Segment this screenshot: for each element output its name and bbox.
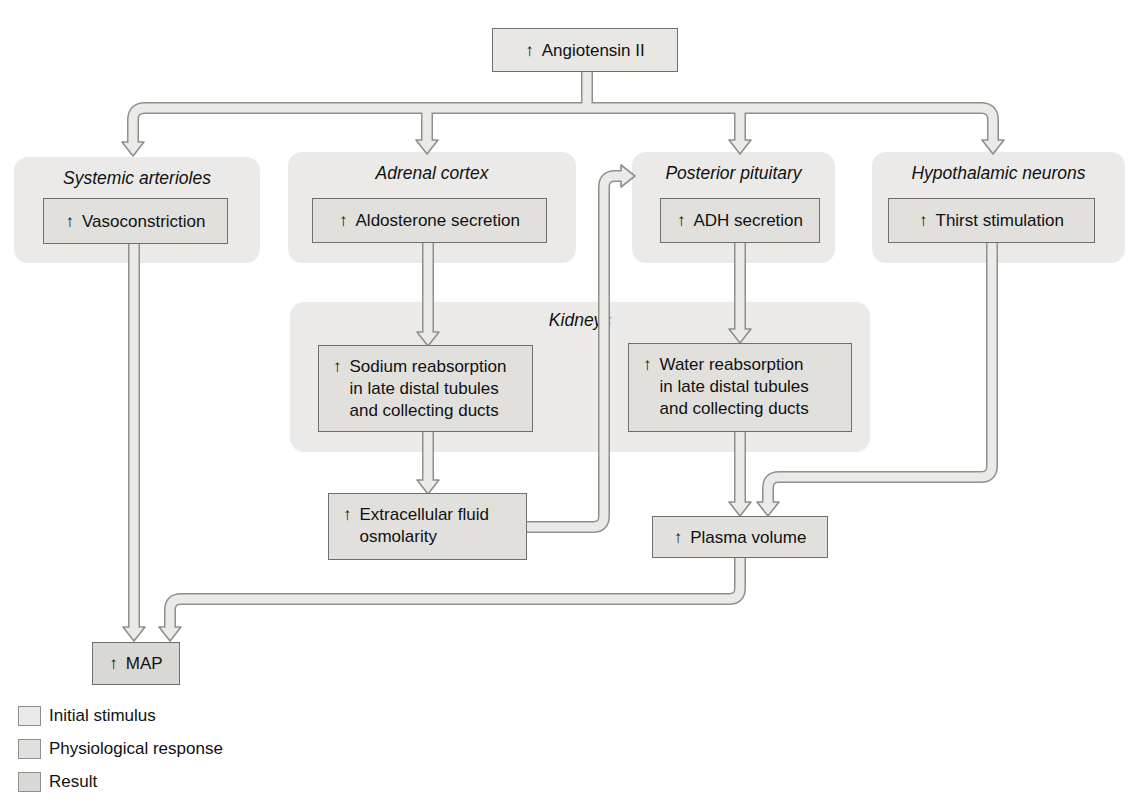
legend-label-physiological-response: Physiological response <box>49 739 223 759</box>
up-arrow-glyph: ↑ <box>66 211 75 232</box>
up-arrow-glyph: ↑ <box>109 653 118 674</box>
up-arrow-glyph: ↑ <box>525 40 534 61</box>
angiotensin-flowchart: Systemic arterioles Adrenal cortex Poste… <box>0 0 1147 812</box>
legend-swatch-result <box>18 772 41 792</box>
flow-arrows <box>0 0 1147 812</box>
arrow-shaft-outlines <box>133 72 993 630</box>
box-label-sodium: Sodium reabsorptionin late distal tubule… <box>350 356 507 422</box>
box-vasoconstriction: ↑ Vasoconstriction <box>43 198 228 244</box>
up-arrow-glyph: ↑ <box>343 504 352 526</box>
box-water-reabsorption: ↑ Water reabsorptionin late distal tubul… <box>628 343 852 432</box>
up-arrow-glyph: ↑ <box>333 356 342 378</box>
arrow-branch-bar <box>133 108 993 145</box>
legend-item-physiological-response: Physiological response <box>18 739 223 759</box>
legend-swatch-initial-stimulus <box>18 706 41 726</box>
up-arrow-glyph: ↑ <box>339 210 348 231</box>
box-label-angiotensin: Angiotensin II <box>542 40 645 61</box>
arrow-heads <box>122 140 1004 641</box>
box-label-aldosterone: Aldosterone secretion <box>356 210 520 231</box>
legend-label-result: Result <box>49 772 97 792</box>
box-label-thirst: Thirst stimulation <box>936 210 1064 231</box>
up-arrow-glyph: ↑ <box>919 210 928 231</box>
legend-item-result: Result <box>18 772 97 792</box>
box-plasma-volume: ↑ Plasma volume <box>652 516 828 558</box>
arrow-shaft-fills <box>133 72 993 630</box>
box-aldosterone: ↑ Aldosterone secretion <box>312 198 547 243</box>
arrow-plasma-to-map <box>170 557 740 630</box>
box-label-ecf: Extracellular fluidosmolarity <box>360 504 489 548</box>
box-label-vasoconstriction: Vasoconstriction <box>82 211 205 232</box>
box-thirst: ↑ Thirst stimulation <box>888 198 1095 243</box>
up-arrow-glyph: ↑ <box>677 210 686 231</box>
legend-label-initial-stimulus: Initial stimulus <box>49 706 156 726</box>
box-sodium-reabsorption: ↑ Sodium reabsorptionin late distal tubu… <box>318 345 533 432</box>
box-angiotensin: ↑ Angiotensin II <box>492 28 678 72</box>
legend-item-initial-stimulus: Initial stimulus <box>18 706 156 726</box>
box-label-adh: ADH secretion <box>693 210 803 231</box>
box-label-plasma: Plasma volume <box>690 527 806 548</box>
box-label-map: MAP <box>126 653 163 674</box>
legend-swatch-physiological-response <box>18 739 41 759</box>
box-label-water: Water reabsorptionin late distal tubules… <box>660 354 809 420</box>
up-arrow-glyph: ↑ <box>643 354 652 376</box>
box-adh: ↑ ADH secretion <box>660 198 820 243</box>
up-arrow-glyph: ↑ <box>674 527 683 548</box>
box-ecf-osmolarity: ↑ Extracellular fluidosmolarity <box>328 493 527 560</box>
box-map: ↑ MAP <box>92 642 180 685</box>
